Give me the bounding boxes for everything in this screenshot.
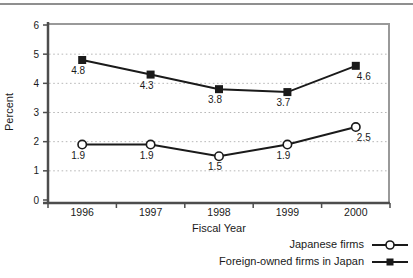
y-tick-label: 5 xyxy=(33,49,39,60)
open-circle-marker-icon xyxy=(283,140,291,148)
y-tick-label: 2 xyxy=(33,136,39,147)
filled-square-marker-icon xyxy=(352,62,360,70)
series-japanese-firms: 1.91.91.51.92.5 xyxy=(71,123,371,172)
line-chart: 0123456199619971998199920001.91.91.51.92… xyxy=(0,0,413,236)
filled-square-marker-icon xyxy=(78,56,86,64)
data-label: 4.3 xyxy=(140,80,154,91)
legend-label: Japanese firms xyxy=(289,238,364,251)
data-label: 4.8 xyxy=(71,65,85,76)
legend-label: Foreign-owned firms in Japan xyxy=(219,255,364,268)
x-tick-label: 1998 xyxy=(207,206,231,218)
open-circle-marker-icon xyxy=(78,140,86,148)
data-label: 1.9 xyxy=(140,150,154,161)
data-label: 3.7 xyxy=(276,97,290,108)
data-label: 1.5 xyxy=(208,161,222,172)
legend-item-foreign-owned-firms: Foreign-owned firms in Japan xyxy=(219,255,408,268)
open-circle-marker-icon xyxy=(215,152,223,160)
x-tick-label: 1996 xyxy=(71,206,95,218)
legend-item-japanese-firms: Japanese firms xyxy=(289,238,408,251)
filled-square-marker-icon xyxy=(372,256,408,268)
x-tick-label: 1999 xyxy=(276,206,300,218)
data-label: 3.8 xyxy=(208,94,222,105)
filled-square-marker-icon xyxy=(147,71,155,79)
series-foreign-owned-firms-in-japan: 4.84.33.83.74.6 xyxy=(71,56,371,108)
y-tick-label: 0 xyxy=(33,195,39,206)
x-tick-label: 1997 xyxy=(139,206,163,218)
x-tick-label: 2000 xyxy=(344,206,368,218)
y-tick-label: 1 xyxy=(33,165,39,176)
y-tick-label: 4 xyxy=(33,78,39,89)
x-axis: 19961997199819992000 xyxy=(48,203,390,218)
data-label: 2.5 xyxy=(357,132,371,143)
open-circle-marker-icon xyxy=(146,140,154,148)
y-tick-label: 3 xyxy=(33,107,39,118)
open-circle-marker-icon xyxy=(372,239,408,251)
y-axis: 0123456 xyxy=(33,20,48,206)
figure: 0123456199619971998199920001.91.91.51.92… xyxy=(0,0,413,278)
open-circle-marker-icon xyxy=(352,123,360,131)
y-axis-label: Percent xyxy=(3,72,17,152)
plot-box xyxy=(43,22,390,204)
data-label: 4.6 xyxy=(357,71,371,82)
filled-square-marker-icon xyxy=(215,85,223,93)
filled-square-marker-icon xyxy=(283,88,291,96)
data-label: 1.9 xyxy=(276,150,290,161)
legend: Japanese firms Foreign-owned firms in Ja… xyxy=(219,238,408,268)
data-label: 1.9 xyxy=(71,150,85,161)
x-axis-label: Fiscal Year xyxy=(48,222,390,234)
y-tick-label: 6 xyxy=(33,20,39,31)
